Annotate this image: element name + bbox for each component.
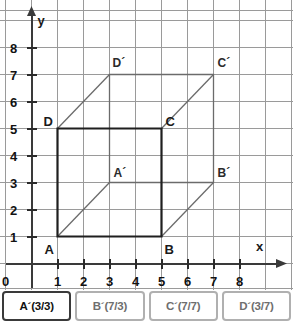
answer-option-label: B´(7/3) xyxy=(93,300,127,312)
vertex-label-aprime: A´ xyxy=(114,167,127,179)
vertex-label-a: A xyxy=(45,243,54,256)
x-tick-label-1: 1 xyxy=(49,275,67,288)
answer-option-3[interactable]: C´(7/7) xyxy=(149,291,218,321)
vertex-label-cprime: C´ xyxy=(218,57,231,69)
y-axis-label: y xyxy=(38,14,45,27)
x-tick-label-5: 5 xyxy=(153,275,171,288)
x-tick-label-0: 0 xyxy=(0,275,15,288)
y-tick-label-4: 4 xyxy=(5,150,23,163)
y-tick-label-3: 3 xyxy=(5,177,23,190)
vertex-label-d: D xyxy=(44,115,53,128)
y-tick-label-8: 8 xyxy=(5,42,23,55)
answer-option-2[interactable]: B´(7/3) xyxy=(75,291,144,321)
x-axis-arrowhead xyxy=(276,259,287,268)
answer-option-1[interactable]: A´(3/3) xyxy=(2,291,71,321)
answer-option-label: C´(7/7) xyxy=(166,300,200,312)
x-axis-label: x xyxy=(256,240,263,253)
answer-option-4[interactable]: D´(3/7) xyxy=(222,291,291,321)
y-tick-label-1: 1 xyxy=(5,231,23,244)
vertex-label-bprime: B´ xyxy=(218,167,231,179)
x-tick-label-7: 7 xyxy=(205,275,223,288)
y-tick-label-6: 6 xyxy=(5,96,23,109)
x-tick-label-4: 4 xyxy=(127,275,145,288)
answer-options-bar: A´(3/3)B´(7/3)C´(7/7)D´(3/7) xyxy=(0,291,293,324)
vertex-label-c: C xyxy=(166,115,175,128)
y-tick-label-7: 7 xyxy=(5,69,23,82)
worksheet-page: ABCDA´B´C´D´yx01234567812345678 A´(3/3)B… xyxy=(0,0,293,324)
y-tick-label-2: 2 xyxy=(5,204,23,217)
x-tick-label-6: 6 xyxy=(179,275,197,288)
coordinate-graph: ABCDA´B´C´D´yx01234567812345678 xyxy=(0,0,293,290)
answer-option-label: D´(3/7) xyxy=(239,300,273,312)
y-tick-label-5: 5 xyxy=(5,123,23,136)
x-tick-label-2: 2 xyxy=(75,275,93,288)
x-tick-label-8: 8 xyxy=(231,275,249,288)
vertex-label-dprime: D´ xyxy=(113,57,126,69)
x-tick-label-3: 3 xyxy=(101,275,119,288)
vertex-label-b: B xyxy=(165,243,174,256)
answer-option-label: A´(3/3) xyxy=(19,300,53,312)
